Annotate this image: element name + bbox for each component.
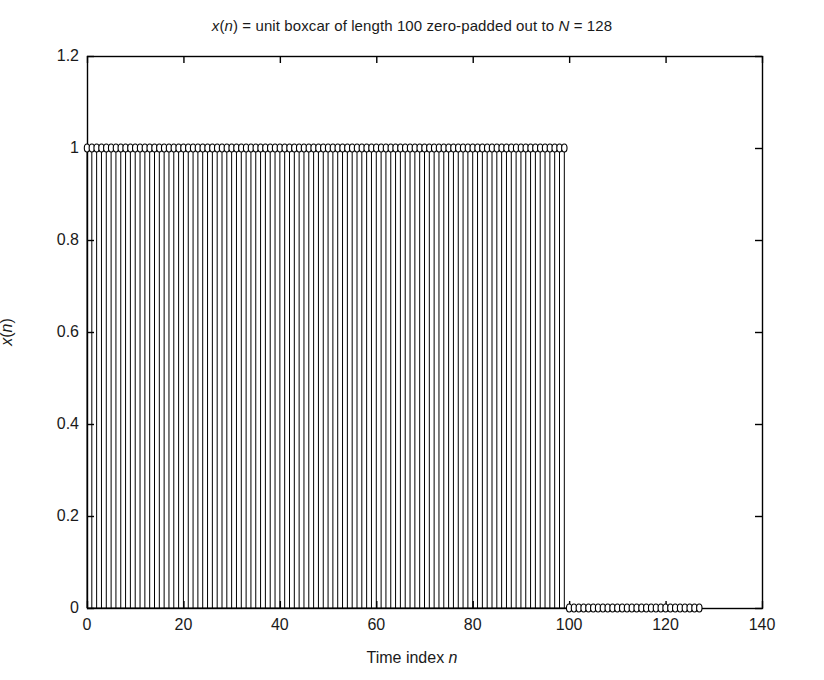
y-tick-label: 0.4 — [23, 415, 79, 433]
plot-area — [0, 0, 824, 680]
xlabel-text: Time index — [366, 649, 448, 666]
stem-markers — [84, 144, 702, 612]
y-tick-label: 0 — [23, 599, 79, 617]
y-axis-label: x(n) — [0, 318, 16, 346]
y-tick-label: 1 — [23, 139, 79, 157]
figure-canvas: x(n) = unit boxcar of length 100 zero-pa… — [0, 0, 824, 680]
x-tick-label: 120 — [652, 616, 679, 634]
y-tick-label: 0.6 — [23, 323, 79, 341]
ylabel-open-paren: ( — [0, 332, 15, 337]
x-tick-label: 40 — [271, 616, 289, 634]
x-tick-label: 140 — [749, 616, 776, 634]
ylabel-n-symbol: n — [0, 324, 15, 333]
data-point-marker — [562, 144, 567, 152]
y-tick-label: 0.8 — [23, 231, 79, 249]
ylabel-x-symbol: x — [0, 338, 15, 346]
ylabel-close-paren: ) — [0, 318, 15, 323]
xlabel-n-symbol: n — [449, 649, 458, 666]
data-point-marker — [697, 604, 702, 612]
x-tick-label: 100 — [556, 616, 583, 634]
x-tick-label: 60 — [367, 616, 385, 634]
x-tick-label: 20 — [175, 616, 193, 634]
x-tick-label: 80 — [464, 616, 482, 634]
x-tick-label: 0 — [83, 616, 92, 634]
y-tick-label: 1.2 — [23, 47, 79, 65]
x-axis-label: Time index n — [0, 649, 824, 667]
y-tick-label: 0.2 — [23, 507, 79, 525]
stem-series — [87, 148, 699, 608]
